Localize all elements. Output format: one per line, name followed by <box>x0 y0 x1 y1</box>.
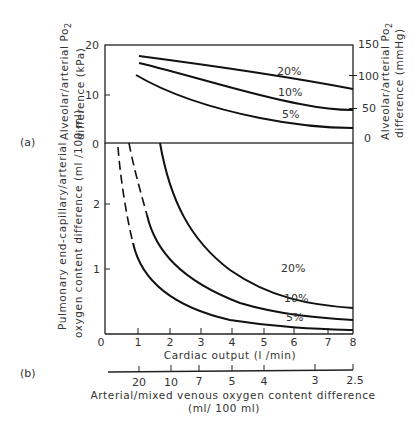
sec-tick-10: 10 <box>164 376 178 389</box>
b-ytick-label-1: 1 <box>93 263 100 276</box>
a-rtick-label-150: 150 <box>358 38 379 51</box>
svg-text:Alveolar/arterial Po2: Alveolar/arterial Po2 <box>379 22 394 140</box>
b-curve-20 <box>160 143 353 308</box>
sec-tick-4: 4 <box>261 375 268 388</box>
a-ytick-label-0: 0 <box>92 138 99 151</box>
xtick-label-1: 1 <box>135 336 142 349</box>
xlabel: Cardiac output (l /min) <box>164 349 297 361</box>
svg-text:Alveolar/arterial Po2: Alveolar/arterial Po2 <box>58 22 73 140</box>
a-rtick-label-0: 0 <box>364 132 371 145</box>
sec-tick-20: 20 <box>132 376 146 389</box>
a-curve-label-20: 20% <box>277 65 301 78</box>
panel-b: 2 1 0 1 2 3 4 5 6 7 8 Cardiac output (l … <box>56 109 357 361</box>
sec-tick-7: 7 <box>196 375 203 388</box>
xtick-label-6: 6 <box>291 336 298 349</box>
sec-tick-3: 3 <box>312 374 319 387</box>
svg-text:Pulmonary end-capillary/arteri: Pulmonary end-capillary/arterial <box>56 142 68 330</box>
b-curve-5-dashed <box>118 147 133 243</box>
secondary-x-axis: 20 10 7 5 4 3 2.5 Arterial/mixed venous … <box>90 364 375 414</box>
a-curve-label-10: 10% <box>278 86 302 99</box>
secondary-xlabel-line2: (ml/ 100 ml) <box>188 402 260 414</box>
a-rtick-label-50: 50 <box>362 102 376 115</box>
secondary-xlabel-line1: Arterial/mixed venous oxygen content dif… <box>90 389 375 401</box>
a-rtick-label-100: 100 <box>358 70 379 83</box>
b-curve-label-5: 5% <box>286 311 303 324</box>
figure: (a) (b) 20 10 0 150 100 50 0 20% 10% 5% … <box>0 0 414 427</box>
b-curve-label-20: 20% <box>281 262 305 275</box>
b-curve-10-dashed <box>129 143 147 215</box>
a-ytick-label-20: 20 <box>85 39 99 52</box>
a-ylabel-right: Alveolar/arterial Po2 difference (mmHg) <box>379 22 405 140</box>
svg-text:difference (mmHg): difference (mmHg) <box>393 28 405 138</box>
a-ytick-label-10: 10 <box>85 89 99 102</box>
b-ylabel: Pulmonary end-capillary/arterial oxygen … <box>56 109 84 338</box>
svg-text:oxygen content difference (ml: oxygen content difference (ml /100 ml) <box>72 109 84 338</box>
xtick-label-3: 3 <box>198 336 205 349</box>
a-curve-label-5: 5% <box>282 108 299 121</box>
panel-label-a: (a) <box>20 136 35 149</box>
xtick-label-4: 4 <box>229 336 236 349</box>
panel-label-b: (b) <box>20 367 36 380</box>
xtick-label-2: 2 <box>167 336 174 349</box>
b-xticks <box>138 328 328 334</box>
panel-a: 20 10 0 150 100 50 0 20% 10% 5% Alveolar… <box>58 22 405 151</box>
b-ytick-label-2: 2 <box>93 198 100 211</box>
a-curve-20 <box>139 56 353 89</box>
sec-tick-5: 5 <box>229 375 236 388</box>
xtick-label-7: 7 <box>325 336 332 349</box>
sec-tick-2-5: 2.5 <box>346 374 364 387</box>
xtick-label-0: 0 <box>98 336 105 349</box>
panel-a-frame <box>105 45 353 143</box>
xtick-label-5: 5 <box>261 336 268 349</box>
xtick-label-8: 8 <box>350 336 357 349</box>
b-curve-label-10: 10% <box>284 292 308 305</box>
